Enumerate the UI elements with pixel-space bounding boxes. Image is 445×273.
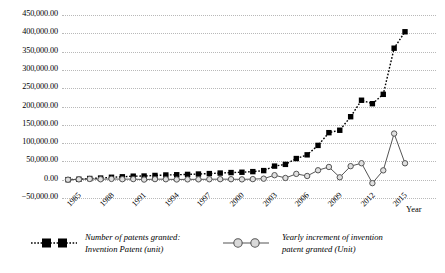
data-point-circle <box>163 177 168 182</box>
data-point-square <box>272 163 277 168</box>
data-point-square <box>250 169 255 174</box>
legend-label-yearly-increment: Yearly increment of invention patent gra… <box>282 232 383 255</box>
data-point-square <box>326 130 331 135</box>
data-point-square <box>217 170 222 175</box>
data-point-circle <box>381 168 386 173</box>
data-point-square <box>261 168 266 173</box>
series-line <box>68 32 405 180</box>
data-point-square <box>348 114 353 119</box>
legend-label-line-1: Number of patents granted: <box>85 232 180 244</box>
data-point-square <box>283 162 288 167</box>
data-point-circle <box>185 177 190 182</box>
series-plot <box>0 0 445 215</box>
data-point-circle <box>391 131 396 136</box>
data-point-circle <box>304 173 309 178</box>
data-point-circle <box>131 176 136 181</box>
data-point-circle <box>370 180 375 185</box>
data-point-square <box>207 171 212 176</box>
legend-label-line-1: Yearly increment of invention <box>282 232 383 244</box>
data-point-circle <box>348 163 353 168</box>
data-point-square <box>370 101 375 106</box>
data-point-circle <box>174 177 179 182</box>
data-point-square <box>239 170 244 175</box>
data-point-circle <box>207 177 212 182</box>
data-point-circle <box>76 177 81 182</box>
data-point-square <box>359 98 364 103</box>
data-point-circle <box>261 176 266 181</box>
data-point-circle <box>109 176 114 181</box>
data-point-square <box>381 92 386 97</box>
data-point-circle <box>326 164 331 169</box>
legend-label-invention-patent: Number of patents granted: Invention Pat… <box>85 232 180 255</box>
data-point-circle <box>272 173 277 178</box>
legend-label-line-2: patent granted (Unit) <box>282 244 383 256</box>
data-point-circle <box>294 171 299 176</box>
legend-label-line-2: Invention Patent (unit) <box>85 244 180 256</box>
data-point-square <box>337 128 342 133</box>
data-point-circle <box>152 176 157 181</box>
data-point-square <box>196 171 201 176</box>
data-point-square <box>315 143 320 148</box>
data-point-circle <box>250 176 255 181</box>
series-line <box>68 134 405 184</box>
data-point-circle <box>98 177 103 182</box>
series-invention-patent <box>65 29 407 182</box>
data-point-circle <box>217 176 222 181</box>
data-point-circle <box>141 177 146 182</box>
data-point-circle <box>120 177 125 182</box>
data-point-circle <box>239 177 244 182</box>
data-point-circle <box>315 168 320 173</box>
data-point-square <box>391 45 396 50</box>
legend-key-open-circle <box>222 237 270 249</box>
data-point-circle <box>283 175 288 180</box>
data-point-circle <box>65 177 70 182</box>
data-point-circle <box>337 175 342 180</box>
data-point-square <box>294 156 299 161</box>
legend-entry-invention-patent: Number of patents granted: Invention Pat… <box>30 232 220 272</box>
legend-key-filled-square <box>30 237 78 249</box>
data-point-square <box>304 152 309 157</box>
data-point-circle <box>359 161 364 166</box>
data-point-circle <box>87 176 92 181</box>
data-point-square <box>228 170 233 175</box>
legend-entry-yearly-increment: Yearly increment of invention patent gra… <box>222 232 437 272</box>
data-point-circle <box>402 161 407 166</box>
plot-area: 450,000.00400,000.00350,000.00300,000.00… <box>0 0 445 215</box>
data-point-square <box>402 29 407 34</box>
data-point-circle <box>228 177 233 182</box>
data-point-circle <box>196 177 201 182</box>
chart-legend: Number of patents granted: Invention Pat… <box>0 232 445 273</box>
patents-granted-chart: 450,000.00400,000.00350,000.00300,000.00… <box>0 0 445 273</box>
